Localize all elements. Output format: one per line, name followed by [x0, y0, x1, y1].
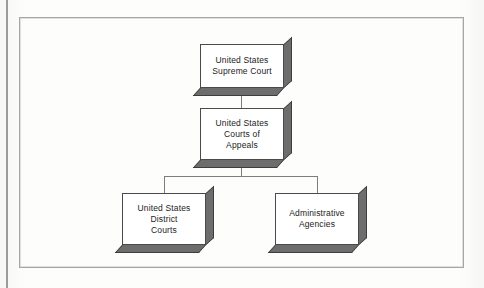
- node-district-courts-extrusion-right: [206, 186, 214, 245]
- connector-split-bar: [164, 176, 317, 177]
- node-district-courts-label: United States District Courts: [135, 203, 194, 236]
- page-margin-rule: [6, 0, 8, 288]
- node-administrative-agencies: Administrative Agencies: [275, 193, 359, 245]
- node-supreme-court-extrusion-bottom: [193, 88, 284, 96]
- node-district-courts-extrusion-bottom: [115, 245, 206, 253]
- node-administrative-agencies-extrusion-right: [359, 186, 367, 245]
- node-courts-of-appeals-extrusion-right: [284, 101, 292, 160]
- figure-page: United States Supreme CourtUnited States…: [0, 0, 484, 288]
- node-courts-of-appeals-label: United States Courts of Appeals: [213, 118, 272, 151]
- node-supreme-court-extrusion-right: [284, 37, 292, 88]
- node-district-courts: United States District Courts: [122, 193, 206, 245]
- node-supreme-court-face: United States Supreme Court: [200, 44, 284, 88]
- connector-drop-administrative-agencies: [317, 176, 318, 193]
- node-administrative-agencies-extrusion-bottom: [268, 245, 359, 253]
- node-courts-of-appeals-extrusion-bottom: [193, 160, 284, 168]
- node-administrative-agencies-face: Administrative Agencies: [275, 193, 359, 245]
- node-supreme-court: United States Supreme Court: [200, 44, 284, 88]
- node-supreme-court-label: United States Supreme Court: [209, 55, 275, 77]
- node-courts-of-appeals-face: United States Courts of Appeals: [200, 108, 284, 160]
- connector-drop-district-courts: [164, 176, 165, 193]
- node-courts-of-appeals: United States Courts of Appeals: [200, 108, 284, 160]
- node-administrative-agencies-label: Administrative Agencies: [286, 208, 347, 230]
- node-district-courts-face: United States District Courts: [122, 193, 206, 245]
